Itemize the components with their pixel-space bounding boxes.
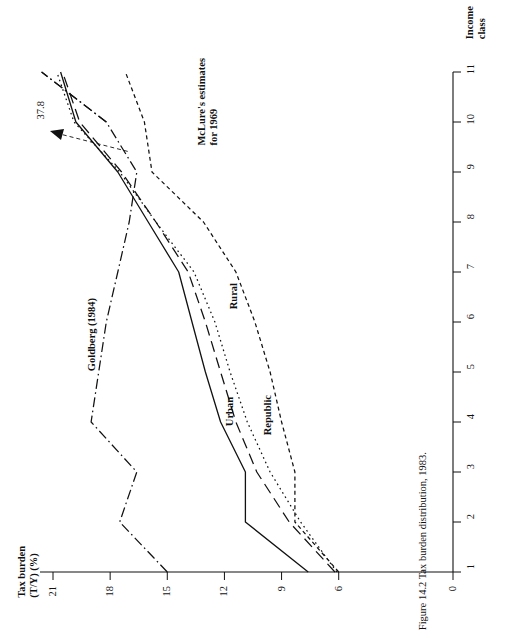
value-axis-title: Tax burden (T/Y) (%) (16, 546, 40, 598)
category-tick-7: 7 (466, 264, 477, 269)
value-tick-6: 6 (334, 586, 345, 591)
value-axis-ticks (53, 572, 453, 580)
value-tick-18: 18 (105, 586, 116, 597)
figure-caption: Figure 14.2 Tax burden distribution, 198… (418, 452, 429, 630)
series-line-mclure-s (125, 72, 338, 572)
category-tick-1: 1 (466, 564, 477, 569)
category-axis-ticks (453, 72, 461, 572)
series-line-rural (57, 72, 337, 572)
value-tick-21: 21 (48, 586, 59, 597)
figure-root: 21181512960 1234567891011 Tax burden (T/… (0, 0, 513, 638)
category-tick-6: 6 (466, 314, 477, 319)
category-tick-4: 4 (466, 414, 477, 419)
value-axis-title-line1: Tax burden (16, 546, 27, 598)
category-tick-3: 3 (466, 464, 477, 469)
category-tick-10: 10 (466, 114, 477, 125)
series-label-mclure: McLure's estimates for 1969 (196, 58, 220, 146)
series-label-mclure-line2: for 1969 (208, 109, 219, 146)
value-tick-15: 15 (162, 586, 173, 597)
category-tick-11: 11 (466, 64, 477, 74)
category-axis-title-line1: Income (464, 6, 475, 39)
series-label-rural: Rural (228, 283, 240, 309)
chart-canvas (0, 0, 513, 638)
series-label-goldberg: Goldberg (1984) (86, 298, 98, 371)
category-axis-title-line2: class (476, 18, 487, 39)
category-tick-2: 2 (466, 514, 477, 519)
series-line-republic (63, 72, 335, 572)
value-axis-title-line2: (T/Y) (%) (28, 553, 39, 598)
series-line-goldberg-1984 (42, 72, 168, 572)
series-label-mclure-line1: McLure's estimates (196, 58, 207, 146)
series-label-republic: Republic (262, 395, 274, 435)
value-tick-9: 9 (277, 586, 288, 591)
series-label-urban: Urban (224, 397, 236, 426)
overflow-arrow-icon (50, 129, 130, 152)
value-tick-12: 12 (219, 586, 230, 597)
annotation-overflow-value: 37.8 (36, 101, 47, 119)
category-axis-title: Income class (464, 6, 488, 39)
category-tick-8: 8 (466, 214, 477, 219)
value-tick-0: 0 (448, 586, 459, 591)
category-tick-5: 5 (466, 364, 477, 369)
category-tick-9: 9 (466, 164, 477, 169)
